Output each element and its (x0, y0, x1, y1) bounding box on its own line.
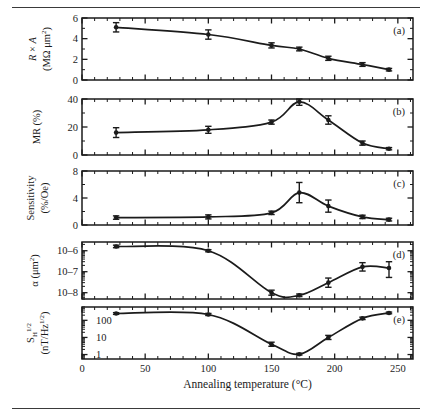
data-point (326, 118, 331, 123)
data-line-d (116, 246, 389, 297)
data-point (326, 335, 331, 340)
panel-frame-e (82, 307, 413, 359)
figure-container: 0246(a)R × A(MΩ μm2)02040(b)MR (%)048(c)… (0, 0, 432, 418)
data-point (360, 215, 365, 220)
panel-a: 0246(a)R × A(MΩ μm2) (27, 13, 413, 86)
xtick-label-0: 0 (79, 363, 84, 374)
multi-panel-chart: 0246(a)R × A(MΩ μm2)02040(b)MR (%)048(c)… (0, 0, 432, 418)
ytick-label-d-1: 10–7 (57, 266, 78, 277)
ytick-label-e-2: 100 (96, 315, 112, 326)
svg-text:(nT/Hz1/2): (nT/Hz1/2) (38, 311, 51, 354)
data-point (387, 217, 392, 222)
ylabel-d: α (μm2) (28, 254, 41, 287)
data-point (387, 311, 392, 316)
data-point (326, 56, 331, 61)
data-point (360, 62, 365, 67)
ytick-label-c-0: 0 (73, 220, 78, 231)
panel-label-d: (d) (393, 249, 406, 261)
data-line-b (116, 102, 389, 149)
data-line-c (116, 193, 389, 220)
ytick-label-d-0: 10–8 (57, 287, 78, 298)
ylabel-a-line1: R × A (27, 36, 38, 62)
data-point (326, 204, 331, 209)
ytick-label-c-1: 4 (73, 193, 79, 204)
data-point (114, 130, 119, 135)
ytick-label-b-2: 40 (68, 94, 79, 105)
data-point (114, 244, 119, 249)
ylabel-c-line1: Sensitivity (25, 175, 36, 221)
data-point (387, 67, 392, 72)
ylabel-e: SH1/2(nT/Hz1/2) (25, 311, 51, 354)
data-point (114, 311, 119, 316)
data-point (360, 141, 365, 146)
x-axis: 050100150200250Annealing temperature (°C… (79, 363, 405, 391)
data-point (326, 280, 331, 285)
data-point (269, 120, 274, 125)
data-point (297, 352, 302, 357)
panel-c: 048(c)Sensitivity(%/Oe) (25, 166, 413, 231)
ytick-label-b-0: 0 (73, 150, 78, 161)
ytick-label-a-2: 4 (73, 33, 79, 44)
svg-text:SH1/2: SH1/2 (25, 323, 39, 343)
data-point (206, 128, 211, 133)
data-point (387, 266, 392, 271)
xtick-label-3: 150 (264, 363, 280, 374)
xtick-label-2: 100 (200, 363, 216, 374)
panel-label-e: (e) (393, 314, 405, 326)
panel-d: 10–810–710–6(d)α (μm2) (28, 242, 413, 299)
data-point (360, 265, 365, 270)
data-point (269, 43, 274, 48)
panel-b: 02040(b)MR (%) (31, 94, 413, 161)
data-point (114, 25, 119, 30)
data-point (297, 293, 302, 298)
ylabel-a-line2: (MΩ μm2) (40, 26, 53, 71)
data-point (206, 312, 211, 317)
data-point (114, 215, 119, 220)
ytick-label-b-1: 20 (68, 122, 79, 133)
xtick-label-5: 250 (390, 363, 406, 374)
data-point (297, 100, 302, 105)
data-point (269, 342, 274, 347)
panel-label-a: (a) (393, 25, 405, 37)
data-point (360, 316, 365, 321)
ytick-label-e-0: 1 (96, 349, 101, 360)
ytick-label-d-2: 10–6 (57, 245, 78, 256)
panel-frame-a (82, 18, 413, 80)
data-point (206, 215, 211, 220)
ylabel-c-line2: (%/Oe) (39, 182, 51, 213)
ytick-label-a-3: 6 (73, 13, 78, 24)
data-point (297, 47, 302, 52)
xtick-label-4: 200 (327, 363, 343, 374)
data-point (297, 190, 302, 195)
ytick-label-a-1: 2 (73, 54, 78, 65)
data-point (206, 248, 211, 253)
data-point (269, 211, 274, 216)
ytick-label-e-1: 10 (96, 332, 107, 343)
data-point (269, 290, 274, 295)
panel-label-c: (c) (393, 178, 405, 190)
x-axis-title: Annealing temperature (°C) (183, 378, 312, 391)
ytick-label-a-0: 0 (73, 75, 78, 86)
panel-e: 110100(e)SH1/2(nT/Hz1/2) (25, 307, 413, 360)
ylabel-b: MR (%) (31, 109, 43, 144)
xtick-label-1: 50 (140, 363, 151, 374)
ytick-label-c-2: 8 (73, 166, 78, 177)
data-point (387, 146, 392, 151)
data-line-e (116, 312, 389, 354)
panel-label-b: (b) (393, 106, 406, 118)
data-line-a (116, 27, 389, 69)
data-point (206, 32, 211, 37)
